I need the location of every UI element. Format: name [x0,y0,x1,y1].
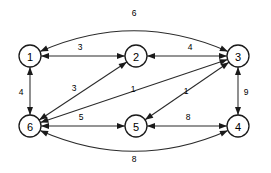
edge-weight-e-2-3: 4 [188,42,193,52]
edge-weight-e-5-3: 1 [184,86,189,96]
arrowhead-e-6-5-start [41,123,49,129]
graph-canvas: 63449311588 123456 [0,0,271,173]
edge-weight-labels-layer: 63449311588 [19,8,249,164]
arrowhead-e-6-4-bottom-left [40,130,49,136]
arrowhead-e-3-4-end [235,107,241,115]
edge-weight-e-5-4: 8 [186,112,191,122]
node-label-1: 1 [27,51,33,63]
node-4[interactable]: 4 [227,115,249,137]
arrowhead-e-3-4-start [235,67,241,75]
arrowhead-e-5-3-start [145,113,153,120]
edge-weight-e-6-4-bottom: 8 [132,154,137,164]
node-3[interactable]: 3 [227,45,249,67]
edge-weight-e-6-2: 3 [72,83,77,93]
edge-weight-e-1-2: 3 [78,42,83,52]
node-label-4: 4 [235,121,241,133]
arrowhead-e-2-3-end [219,53,227,59]
edge-weight-e-6-5: 5 [79,112,84,122]
node-label-6: 6 [27,121,33,133]
arrowhead-e-5-4-end [219,123,227,129]
edge-weight-e-1-3-top: 6 [132,8,137,18]
arrowhead-e-1-2-end [117,53,125,59]
arrowhead-e-1-3-top-right [219,46,228,52]
arrowhead-e-1-6-start [27,67,33,75]
node-label-3: 3 [235,51,241,63]
edge-weight-e-6-3: 1 [131,84,136,94]
arrowhead-e-1-3-top-left [40,46,49,52]
arrowhead-e-5-4-start [147,123,155,129]
arrowhead-e-6-4-bottom-right [219,130,228,136]
node-6[interactable]: 6 [19,115,41,137]
node-5[interactable]: 5 [125,115,147,137]
edge-weight-e-1-6: 4 [19,87,24,97]
graph-diagram: 63449311588 123456 [0,0,271,173]
arrowhead-e-6-5-end [117,123,125,129]
arrowhead-e-6-2-end [118,62,126,69]
node-1[interactable]: 1 [19,45,41,67]
node-2[interactable]: 2 [125,45,147,67]
edge-weight-e-3-4: 9 [244,87,249,97]
arrowhead-e-2-3-start [147,53,155,59]
arrowhead-e-1-2-start [41,53,49,59]
node-label-5: 5 [133,121,139,133]
arrowhead-e-1-6-end [27,107,33,115]
node-label-2: 2 [133,51,139,63]
